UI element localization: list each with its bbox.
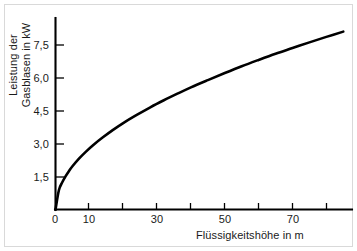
chart-figure: 1,5 3,0 4,5 6,0 7,5 0 10 30 50 70 Flüssi… <box>0 0 357 251</box>
gas-bubble-power-curve <box>56 32 344 210</box>
y-tick-label-3-0: 3,0 <box>23 138 49 150</box>
x-tick-label-30: 30 <box>151 213 163 225</box>
y-axis-title: Leistung der Gasblasen in kW <box>7 10 33 120</box>
y-axis-title-line-1: Leistung der <box>7 10 20 120</box>
x-tick-label-0: 0 <box>52 213 58 225</box>
y-axis-title-line-2: Gasblasen in kW <box>20 10 33 120</box>
x-tick-label-50: 50 <box>219 213 231 225</box>
x-tick-label-10: 10 <box>83 213 95 225</box>
y-tick-label-1-5: 1,5 <box>23 171 49 183</box>
x-tick-label-70: 70 <box>287 213 299 225</box>
x-axis-title: Flüssigkeitshöhe in m <box>196 229 304 241</box>
